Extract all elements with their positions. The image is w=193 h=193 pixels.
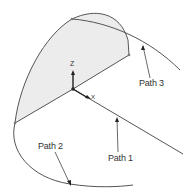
- z-axis-label: Z: [70, 60, 74, 67]
- cad-sweep-diagram: Z X Path 3 Path 1 Path 2: [0, 0, 193, 193]
- surface-face: [15, 13, 129, 123]
- diagram-graphics: [0, 0, 193, 193]
- path1-label: Path 1: [108, 153, 133, 163]
- x-axis-arrow: [73, 89, 91, 99]
- path3-label: Path 3: [139, 78, 164, 88]
- x-axis-label: X: [91, 94, 95, 100]
- path2-label: Path 2: [38, 141, 63, 151]
